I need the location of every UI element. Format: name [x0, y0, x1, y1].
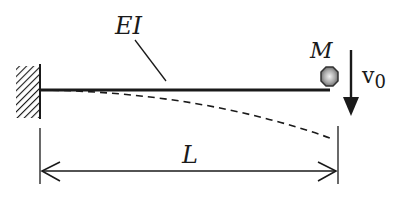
mass-label: M	[309, 38, 333, 63]
velocity-subscript: 0	[374, 71, 385, 92]
deflected-shape-curve	[40, 90, 330, 138]
fixed-wall-support	[16, 64, 40, 119]
velocity-label: v0	[361, 63, 386, 92]
mass-ball-icon	[321, 67, 338, 86]
velocity-symbol: v	[361, 63, 375, 88]
stiffness-label: EI	[114, 12, 143, 40]
ei-leader-line	[135, 40, 166, 81]
velocity-arrow	[343, 50, 359, 116]
tip-mass	[321, 67, 338, 86]
wall-hatching	[16, 66, 40, 118]
cantilever-diagram: EI M v0 L	[0, 0, 408, 203]
length-label: L	[181, 141, 198, 169]
arrow-down-icon	[343, 97, 359, 116]
